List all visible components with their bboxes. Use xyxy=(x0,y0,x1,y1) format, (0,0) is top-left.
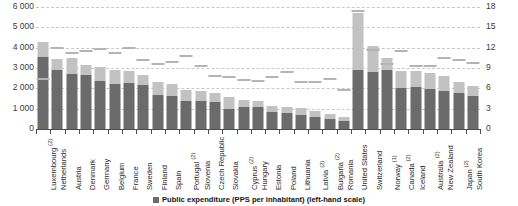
x-axis-label: Spain xyxy=(175,171,183,190)
bar-group[interactable] xyxy=(265,7,279,129)
bar-group[interactable] xyxy=(237,7,251,129)
bar-segment-public xyxy=(138,85,149,129)
chart-container: 01 0002 0003 0004 0005 0006 000 03691215… xyxy=(0,0,518,206)
gdp-share-marker xyxy=(223,76,236,78)
x-axis-label: Japan (2) xyxy=(462,160,474,190)
bar-segment-public xyxy=(52,70,63,129)
bar-group[interactable] xyxy=(179,7,193,129)
footnote-marker: (2) xyxy=(47,139,53,146)
right-axis-tick-label: 3 xyxy=(486,104,491,113)
footnote-marker: (2) xyxy=(334,153,340,160)
bar-group[interactable] xyxy=(466,7,480,129)
bar-group[interactable] xyxy=(79,7,93,129)
bar-group[interactable] xyxy=(294,7,308,129)
bar-segment-public xyxy=(167,96,178,129)
bar-group[interactable] xyxy=(165,7,179,129)
bar-group[interactable] xyxy=(222,7,236,129)
bar-segment-public xyxy=(467,96,478,129)
bar-segment-public xyxy=(124,83,135,129)
gdp-share-marker xyxy=(266,76,279,78)
bar-group[interactable] xyxy=(322,7,336,129)
gdp-share-marker xyxy=(108,52,121,54)
x-axis-label: Norway (1) xyxy=(390,155,402,190)
bar-segment-private xyxy=(152,82,163,94)
footnote-marker: (2) xyxy=(319,161,325,168)
x-axis-label: Australia (2) xyxy=(433,151,445,190)
bar-segment-public xyxy=(95,81,106,129)
x-axis-label: Switzerland xyxy=(376,151,384,190)
bar-group[interactable] xyxy=(308,7,322,129)
bar-segment-private xyxy=(167,84,178,96)
bar-segment-public xyxy=(367,72,378,129)
bar-group[interactable] xyxy=(380,7,394,129)
bar-segment-public xyxy=(410,87,421,129)
gdp-share-marker xyxy=(151,63,164,65)
gdp-share-marker xyxy=(294,81,307,83)
gdp-share-marker xyxy=(309,81,322,83)
bar-group[interactable] xyxy=(365,7,379,129)
bar-group[interactable] xyxy=(50,7,64,129)
bar-group[interactable] xyxy=(93,7,107,129)
bar-segment-private xyxy=(238,100,249,108)
bar-group[interactable] xyxy=(279,7,293,129)
gdp-share-marker xyxy=(452,59,465,61)
bar-segment-public xyxy=(38,57,49,129)
x-axis-label: Belgium xyxy=(118,163,126,190)
x-axis-label: Bulgaria (2) xyxy=(333,153,345,190)
right-axis-tick-label: 0 xyxy=(486,124,491,133)
bar-group[interactable] xyxy=(151,7,165,129)
bar-group[interactable] xyxy=(194,7,208,129)
gdp-share-marker xyxy=(137,59,150,61)
plot-area xyxy=(36,7,480,129)
bar-group[interactable] xyxy=(423,7,437,129)
bar-group[interactable] xyxy=(451,7,465,129)
bar-segment-private xyxy=(295,108,306,114)
bar-group[interactable] xyxy=(36,7,50,129)
left-axis-tick-label: 5 000 xyxy=(13,22,34,31)
gdp-share-marker xyxy=(94,48,107,50)
gdp-share-marker xyxy=(280,71,293,73)
bar-segment-private xyxy=(338,117,349,122)
left-axis-tick-label: 1 000 xyxy=(13,104,34,113)
legend-label: Public expenditure (PPS per inhabitant) … xyxy=(162,195,365,204)
bar-group[interactable] xyxy=(208,7,222,129)
x-axis-label: Romania xyxy=(347,160,355,190)
bar-segment-public xyxy=(439,91,450,129)
gdp-share-marker xyxy=(409,65,422,67)
gdp-share-marker xyxy=(80,50,93,52)
gdp-share-marker xyxy=(194,65,207,67)
footnote-marker: (2) xyxy=(248,157,254,164)
bar-segment-private xyxy=(410,71,421,87)
gdp-share-marker xyxy=(37,78,50,80)
bar-group[interactable] xyxy=(65,7,79,129)
x-axis-label: Slovenia xyxy=(204,161,212,190)
gdp-share-marker xyxy=(65,52,78,54)
x-axis-label: Sweden xyxy=(146,163,154,190)
x-axis-label: New Zealand xyxy=(447,145,455,190)
right-axis-tick-label: 15 xyxy=(486,22,495,31)
bar-group[interactable] xyxy=(437,7,451,129)
bar-group[interactable] xyxy=(122,7,136,129)
gdp-share-marker xyxy=(352,10,365,12)
bar-segment-private xyxy=(66,58,77,74)
bar-segment-public xyxy=(396,88,407,129)
gdp-share-marker xyxy=(466,62,479,64)
left-axis-tick-label: 4 000 xyxy=(13,43,34,52)
bar-segment-public xyxy=(210,102,221,129)
bar-group[interactable] xyxy=(408,7,422,129)
bar-group[interactable] xyxy=(394,7,408,129)
gdp-share-marker xyxy=(51,47,64,49)
bar-group[interactable] xyxy=(251,7,265,129)
bar-group[interactable] xyxy=(337,7,351,129)
bar-segment-private xyxy=(109,70,120,83)
bar-group[interactable] xyxy=(108,7,122,129)
bar-segment-private xyxy=(424,73,435,89)
bar-segment-private xyxy=(267,106,278,113)
bar-segment-public xyxy=(267,112,278,129)
x-axis-label: Denmark xyxy=(89,159,97,190)
bar-segment-private xyxy=(281,107,292,114)
bar-group[interactable] xyxy=(136,7,150,129)
bar-segment-public xyxy=(81,75,92,129)
bar-group[interactable] xyxy=(351,7,365,129)
bar-segment-private xyxy=(324,114,335,119)
